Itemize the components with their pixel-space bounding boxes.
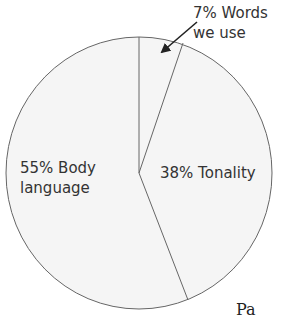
label-words-we-use: 7% Words we use <box>193 3 268 43</box>
label-words-line1: 7% Words <box>193 3 268 23</box>
footer-text-fragment: Pa <box>236 300 256 319</box>
label-body-language: 55% Body language <box>20 158 96 198</box>
label-tonality: 38% Tonality <box>160 163 256 183</box>
label-body-line2: language <box>20 178 96 198</box>
label-body-line1: 55% Body <box>20 158 96 178</box>
label-words-line2: we use <box>193 23 268 43</box>
